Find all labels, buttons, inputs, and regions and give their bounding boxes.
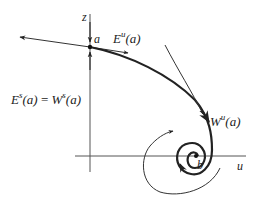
u-axis-label: u xyxy=(237,160,243,172)
label-base: W xyxy=(210,114,221,129)
label-sup: u xyxy=(121,29,126,39)
unstable-eigenspace-label: Eu(a) xyxy=(113,32,141,45)
label-sup: s xyxy=(19,90,23,100)
unstable-manifold-curve xyxy=(90,47,212,174)
label-arg: (a) xyxy=(22,92,37,107)
phase-portrait-diagram: z u a b Eu(a) Es(a) = Ws(a) Wu(a) xyxy=(0,0,262,203)
label-arg: (a) xyxy=(125,31,140,46)
label-base: W xyxy=(51,92,62,107)
unstable-manifold-label: Wu(a) xyxy=(210,115,241,128)
unstable-eigenspace-line xyxy=(20,37,128,53)
z-axis-label: z xyxy=(82,11,87,23)
label-base: E xyxy=(11,92,19,107)
label-sup: s xyxy=(62,90,66,100)
point-a-dot xyxy=(88,45,92,49)
label-sup: u xyxy=(221,112,226,122)
point-a-label: a xyxy=(94,33,100,45)
label-base: E xyxy=(113,31,121,46)
point-b-label: b xyxy=(197,159,203,171)
equals-sign: = xyxy=(41,92,48,107)
stable-manifold-equation: Es(a) = Ws(a) xyxy=(11,93,81,106)
label-arg: (a) xyxy=(66,92,81,107)
label-arg: (a) xyxy=(225,114,240,129)
